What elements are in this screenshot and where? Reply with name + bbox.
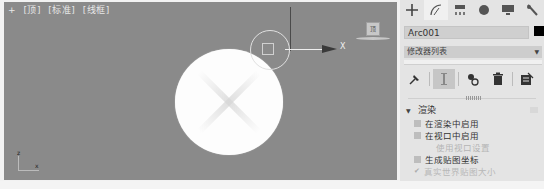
checkbox-label: 生成贴图坐标 [425, 153, 479, 165]
object-name-field[interactable]: Arc001 [404, 26, 529, 39]
show-end-result-button[interactable] [433, 69, 455, 89]
modifier-stack[interactable] [404, 60, 542, 65]
viewport-shading-standard[interactable]: [标准] [48, 5, 75, 15]
checkbox-box[interactable] [414, 156, 421, 163]
toolbar-separator [458, 72, 459, 86]
viewport-menu-plus[interactable]: + [8, 5, 16, 15]
gizmo-x-arrow-icon[interactable] [322, 45, 337, 53]
axis-tripod-icon: z x [18, 156, 39, 171]
collapse-triangle-icon: ▼ [406, 107, 411, 114]
gizmo-y-axis[interactable] [290, 7, 291, 51]
rendering-rollout: ▼ 渲染 在渲染中启用 在视口中启用 使用视口设置 生成贴图坐标 ✔ 真实世界贴… [406, 103, 542, 177]
wrench-icon [526, 4, 538, 16]
bottom-strip [0, 181, 544, 189]
checkbox-enable-in-viewport[interactable]: 在视口中启用 [406, 129, 542, 141]
viewport-view-label[interactable]: [顶] [23, 5, 41, 15]
checkbox-enable-in-renderer[interactable]: 在渲染中启用 [406, 117, 542, 129]
checkbox-label: 在渲染中启用 [425, 117, 479, 129]
rollout-pin-icon[interactable] [530, 107, 538, 113]
checkbox-use-viewport-settings: 使用视口设置 [406, 141, 542, 153]
show-end-result-icon [439, 72, 449, 86]
command-panel-tabs [400, 0, 544, 20]
trash-icon [492, 72, 504, 86]
viewport-label[interactable]: + [顶] [标准] [线框] [8, 3, 114, 16]
modifier-list-dropdown[interactable]: 修改器列表 ▼ [404, 46, 542, 58]
viewcube-compass[interactable] [356, 37, 390, 40]
remove-modifier-button[interactable] [487, 69, 509, 89]
modify-arc-icon [430, 4, 442, 16]
axis-x-label: x [35, 162, 39, 169]
toolbar-separator [512, 72, 513, 86]
gizmo-x-label: X [340, 42, 345, 51]
rollout-title: 渲染 [418, 105, 436, 115]
motion-sphere-icon [478, 4, 490, 16]
plus-icon [406, 4, 418, 16]
transform-gizmo-center[interactable] [262, 43, 274, 55]
rollout-header-rendering[interactable]: ▼ 渲染 [406, 103, 542, 117]
hierarchy-icon [454, 4, 466, 16]
panel-grip-handle[interactable] [466, 96, 482, 100]
checkbox-generate-mapping-coords[interactable]: 生成贴图坐标 [406, 153, 542, 165]
checkbox-real-world-map-size: ✔ 真实世界贴图大小 [406, 165, 542, 177]
modifier-stack-toolbar [404, 68, 542, 90]
toolbar-separator [429, 72, 430, 86]
command-panel: Arc001 修改器列表 ▼ ▼ 渲染 [400, 0, 544, 181]
tab-modify[interactable] [424, 0, 448, 20]
chevron-down-icon: ▼ [534, 46, 539, 58]
tab-display[interactable] [496, 0, 520, 20]
tab-hierarchy[interactable] [448, 0, 472, 20]
make-unique-button[interactable] [462, 69, 484, 89]
modifier-list-label: 修改器列表 [407, 47, 447, 56]
checkbox-box[interactable] [414, 132, 421, 139]
viewport-shading-wireframe[interactable]: [线框] [83, 5, 110, 15]
checkbox-label: 在视口中启用 [425, 129, 479, 141]
checkbox-box[interactable] [414, 120, 421, 127]
checkbox-label: 使用视口设置 [436, 141, 490, 153]
checkbox-label: 真实世界贴图大小 [424, 165, 496, 177]
configure-modifier-sets-button[interactable] [516, 69, 538, 89]
pin-stack-button[interactable] [404, 69, 426, 89]
tab-utilities[interactable] [520, 0, 544, 20]
tab-motion[interactable] [472, 0, 496, 20]
viewport-top[interactable]: + [顶] [标准] [线框] X 顶 z x [4, 2, 397, 180]
checkmark-icon: ✔ [414, 167, 420, 175]
viewcube[interactable]: 顶 [366, 22, 380, 36]
display-monitor-icon [501, 4, 515, 16]
make-unique-icon [466, 72, 480, 86]
configure-sets-icon [520, 72, 534, 86]
axis-z-label: z [17, 149, 20, 156]
pin-icon [408, 72, 422, 86]
tab-create[interactable] [400, 0, 424, 20]
object-color-swatch[interactable] [534, 26, 544, 36]
